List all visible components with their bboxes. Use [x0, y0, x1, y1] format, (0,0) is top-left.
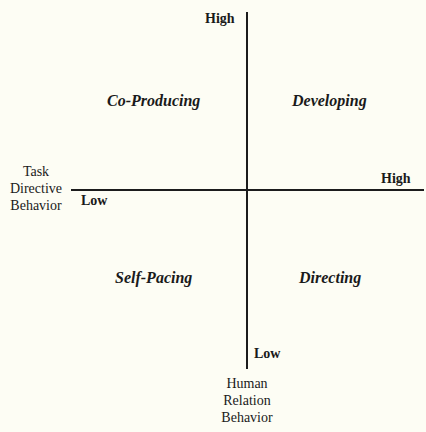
- horizontal-axis-line: [71, 189, 424, 191]
- horizontal-axis-title-line: Task: [2, 163, 70, 180]
- vertical-axis-title: Human Relation Behavior: [212, 375, 282, 426]
- horizontal-axis-high-label: High: [381, 171, 411, 187]
- horizontal-axis-title: Task Directive Behavior: [2, 163, 70, 214]
- horizontal-axis-low-label: Low: [81, 193, 107, 209]
- vertical-axis-title-line: Behavior: [212, 409, 282, 426]
- vertical-axis-title-line: Human: [212, 375, 282, 392]
- vertical-axis-high-label: High: [205, 11, 235, 27]
- vertical-axis-title-line: Relation: [212, 392, 282, 409]
- quadrant-top-right-label: Developing: [292, 92, 367, 110]
- horizontal-axis-title-line: Directive: [2, 180, 70, 197]
- quadrant-bottom-left-label: Self-Pacing: [115, 269, 192, 287]
- horizontal-axis-title-line: Behavior: [2, 197, 70, 214]
- quadrant-top-left-label: Co-Producing: [107, 92, 200, 110]
- vertical-axis-low-label: Low: [254, 346, 280, 362]
- quadrant-bottom-right-label: Directing: [299, 269, 361, 287]
